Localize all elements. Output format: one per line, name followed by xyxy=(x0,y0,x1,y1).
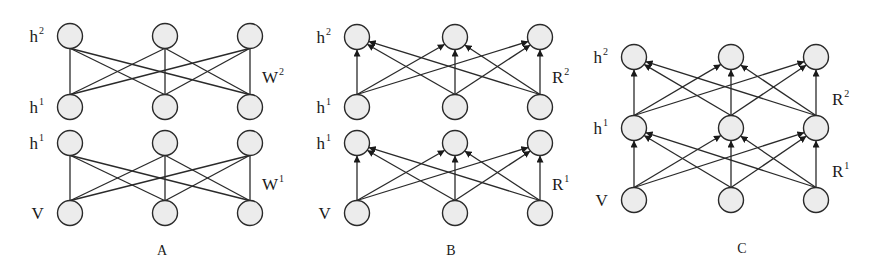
directed-edge xyxy=(357,147,528,200)
layer-label-h2: h2 xyxy=(30,25,45,46)
node-h1-3 xyxy=(238,131,263,156)
layer-label-h2: h2 xyxy=(594,46,609,67)
node-h2-1 xyxy=(58,24,83,49)
layer-label-v: V xyxy=(319,204,332,223)
node-h1-1 xyxy=(345,131,370,156)
directed-edge xyxy=(741,65,816,115)
node-v-1 xyxy=(622,188,647,213)
node-h1-3 xyxy=(238,95,263,120)
weight-label-r2: R2 xyxy=(832,88,849,109)
node-h2-3 xyxy=(238,24,263,49)
node-h1-3 xyxy=(804,116,829,141)
layer-label-h1: h1 xyxy=(317,132,332,153)
layer-label-h1: h1 xyxy=(317,96,332,117)
node-h2-3 xyxy=(804,45,829,70)
layer-label-h1: h1 xyxy=(30,96,45,117)
node-v-3 xyxy=(804,188,829,213)
node-h2-1 xyxy=(345,25,370,50)
node-h2-3 xyxy=(528,25,553,50)
node-v-3 xyxy=(238,201,263,226)
weight-label-r1: R1 xyxy=(552,173,569,194)
node-v-2 xyxy=(443,201,468,226)
weight-label-r2: R2 xyxy=(552,66,569,87)
nodes xyxy=(58,24,263,226)
edges xyxy=(357,41,540,200)
weight-label-w1: W1 xyxy=(262,173,284,194)
layer-label-v: V xyxy=(32,204,45,223)
labels: h2h1W2h1VW1 xyxy=(30,25,285,223)
node-h2-2 xyxy=(443,25,468,50)
layer-label-h2: h2 xyxy=(317,26,332,47)
node-h1-2 xyxy=(153,131,178,156)
node-h2-2 xyxy=(153,24,178,49)
node-h2-2 xyxy=(719,45,744,70)
caption-c: C xyxy=(737,241,746,256)
directed-edge xyxy=(741,136,816,187)
node-v-2 xyxy=(153,201,178,226)
weight-label-w2: W2 xyxy=(262,66,284,87)
node-h1-3 xyxy=(528,131,553,156)
caption-a: A xyxy=(157,243,168,258)
node-h1-1 xyxy=(58,131,83,156)
node-v-3 xyxy=(528,201,553,226)
node-h2-1 xyxy=(622,45,647,70)
node-h1-1 xyxy=(58,95,83,120)
network-diagrams-canvas: h2h1W2h1VW1A h2h1R2h1VR1B h2h1R2VR1C xyxy=(0,0,881,276)
directed-edge xyxy=(634,133,804,188)
node-v-1 xyxy=(58,201,83,226)
node-h1-2 xyxy=(443,131,468,156)
node-h1-2 xyxy=(153,95,178,120)
diagram-a-rbm-stack: h2h1W2h1VW1A xyxy=(30,24,285,259)
node-h1-1 xyxy=(345,95,370,120)
diagram-c-directed-network: h2h1R2VR1C xyxy=(594,45,850,257)
caption-b: B xyxy=(446,243,455,258)
directed-edge xyxy=(465,45,540,95)
layer-label-v: V xyxy=(596,191,609,210)
node-h1-2 xyxy=(719,116,744,141)
weight-label-r1: R1 xyxy=(832,160,849,181)
node-h1-2 xyxy=(443,95,468,120)
node-h1-3 xyxy=(528,95,553,120)
directed-edge xyxy=(634,62,804,116)
directed-edge xyxy=(357,41,528,94)
node-h1-1 xyxy=(622,116,647,141)
layer-label-h1: h1 xyxy=(594,117,609,138)
directed-edge xyxy=(465,151,540,201)
node-v-1 xyxy=(345,201,370,226)
node-v-2 xyxy=(719,188,744,213)
layer-label-h1: h1 xyxy=(30,132,45,153)
edges xyxy=(70,49,250,201)
diagram-b-directed-stack: h2h1R2h1VR1B xyxy=(317,25,570,259)
